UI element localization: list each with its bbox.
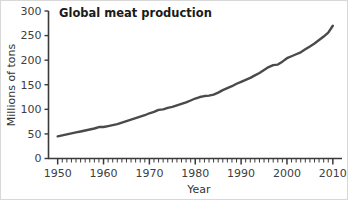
x-tick-label: 1970: [135, 167, 163, 180]
y-tick-label: 0: [35, 152, 42, 165]
chart-title: Global meat production: [59, 6, 212, 20]
x-tick-label: 2010: [319, 167, 347, 180]
y-axis-tick-labels: 050100150200250300: [21, 5, 42, 166]
y-tick-label: 200: [21, 54, 42, 67]
y-tick-label: 100: [21, 103, 42, 116]
data-series-line: [58, 26, 333, 137]
x-tick-label: 1980: [181, 167, 209, 180]
x-tick-label: 2000: [273, 167, 301, 180]
y-tick-label: 50: [28, 128, 42, 141]
x-axis-title: Year: [186, 183, 211, 196]
x-tick-label: 1990: [227, 167, 255, 180]
y-tick-label: 250: [21, 29, 42, 42]
x-tick-label: 1950: [44, 167, 72, 180]
line-chart: 050100150200250300 195019601970198019902…: [1, 1, 348, 200]
y-tick-label: 150: [21, 79, 42, 92]
chart-figure: 050100150200250300 195019601970198019902…: [0, 0, 348, 200]
y-axis-title: Millions of tons: [5, 43, 18, 126]
x-tick-label: 1960: [90, 167, 118, 180]
x-axis-tick-labels: 1950196019701980199020002010: [44, 167, 347, 180]
y-tick-label: 300: [21, 5, 42, 18]
